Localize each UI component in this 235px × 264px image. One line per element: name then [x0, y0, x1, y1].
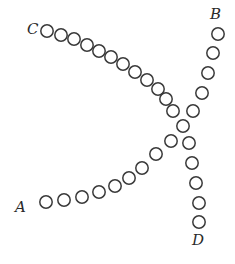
label-d: D	[192, 233, 204, 248]
bead-diagram	[0, 0, 235, 264]
bead-circle	[81, 39, 93, 51]
bead-circle	[55, 29, 67, 41]
bead-circle	[186, 157, 198, 169]
bead-circle	[160, 93, 172, 105]
bead-circle	[167, 105, 179, 117]
arm-a	[40, 135, 177, 208]
arm-c	[41, 25, 179, 117]
bead-circle	[40, 196, 52, 208]
bead-circle	[41, 25, 53, 37]
bead-circle	[117, 58, 129, 70]
label-c: C	[27, 22, 38, 37]
bead-circle	[68, 33, 80, 45]
arm-b	[187, 28, 224, 117]
bead-circle	[136, 162, 148, 174]
bead-circle	[207, 47, 219, 59]
bead-circle	[183, 137, 195, 149]
center	[177, 120, 189, 132]
bead-circle	[202, 67, 214, 79]
bead-circle	[93, 186, 105, 198]
bead-circle	[190, 177, 202, 189]
bead-circle	[129, 66, 141, 78]
bead-circle	[76, 191, 88, 203]
bead-circle	[165, 135, 177, 147]
bead-circle	[193, 216, 205, 228]
arm-d	[183, 137, 205, 228]
bead-circle	[105, 51, 117, 63]
bead-circle	[93, 45, 105, 57]
bead-circle	[187, 105, 199, 117]
bead-circle	[193, 197, 205, 209]
label-a: A	[15, 200, 26, 215]
bead-circle	[212, 28, 224, 40]
label-b: B	[210, 7, 221, 22]
bead-circle	[177, 120, 189, 132]
bead-circle	[123, 172, 135, 184]
bead-circle	[141, 74, 153, 86]
bead-circle	[150, 148, 162, 160]
bead-circle	[109, 180, 121, 192]
bead-circle	[196, 87, 208, 99]
bead-circle	[58, 194, 70, 206]
